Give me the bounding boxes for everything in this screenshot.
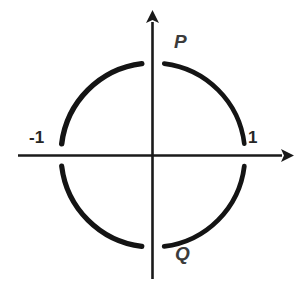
circle-arc-quadrant-2 [62,64,142,144]
x-tick-label-positive-one: 1 [248,129,257,146]
point-label-q: Q [175,244,190,263]
unit-circle-figure: P Q -1 1 [0,0,306,285]
point-label-p: P [174,32,187,51]
figure-canvas [0,0,306,285]
circle-arc-quadrant-1 [164,64,244,144]
x-axis-arrow-icon [281,149,294,162]
circle-arc-quadrant-3 [62,166,142,246]
y-axis-group [146,10,159,279]
x-tick-label-negative-one: -1 [29,129,44,146]
x-axis-group [18,149,294,162]
circle-arc-quadrant-4 [164,166,244,246]
y-axis-arrow-icon [146,10,159,23]
